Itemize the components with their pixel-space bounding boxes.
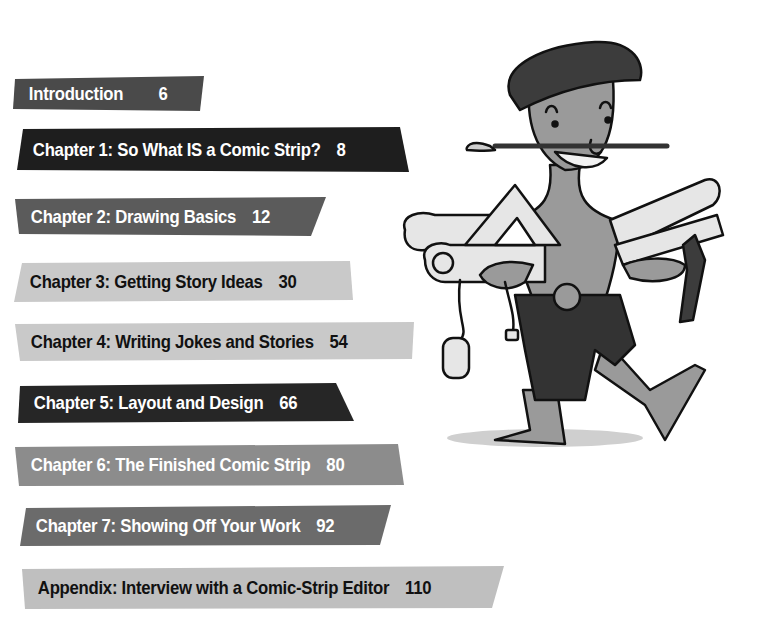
toc-entry-text: Chapter 7: Showing Off Your Work92 [20,515,334,537]
toc-entry-text: Chapter 3: Getting Story Ideas30 [14,271,296,293]
t-square [680,235,705,322]
right-hand [623,259,685,282]
entry-page-number: 6 [158,83,167,104]
right-eye [606,118,611,123]
entry-title: Chapter 4: Writing Jokes and Stories [31,331,314,352]
toc-entry-text: Chapter 4: Writing Jokes and Stories54 [15,331,348,353]
toc-entry-chapter-3[interactable]: Chapter 3: Getting Story Ideas30 [14,261,353,302]
entry-page-number: 12 [252,206,270,227]
entry-title: Appendix: Interview with a Comic-Strip E… [38,577,389,598]
toc-entry-text: Appendix: Interview with a Comic-Strip E… [22,577,431,599]
toc-entry-introduction[interactable]: Introduction6 [13,76,206,111]
computer-mouse [443,338,469,378]
mouse-cable [459,280,464,340]
belt-buckle [554,284,580,310]
entry-title: Chapter 6: The Finished Comic Strip [31,454,311,475]
toc-entry-text: Chapter 6: The Finished Comic Strip80 [15,454,344,476]
toc-entry-chapter-4[interactable]: Chapter 4: Writing Jokes and Stories54 [15,322,414,361]
toc-entry-text: Chapter 2: Drawing Basics12 [15,206,270,228]
entry-page-number: 110 [405,577,431,598]
toc-entry-chapter-6[interactable]: Chapter 6: The Finished Comic Strip80 [15,444,404,486]
paintbrush-bristles [467,143,495,151]
entry-page-number: 92 [316,515,334,536]
entry-page-number: 8 [336,139,345,160]
cartoon-artist-illustration [395,20,735,470]
entry-title: Chapter 2: Drawing Basics [31,206,236,227]
toc-entry-text: Chapter 1: So What IS a Comic Strip?8 [17,139,346,161]
entry-title: Chapter 5: Layout and Design [34,392,264,413]
toc-entry-chapter-7[interactable]: Chapter 7: Showing Off Your Work92 [20,505,391,546]
cable-plug [506,330,518,340]
left-eye [553,122,558,127]
entry-title: Chapter 7: Showing Off Your Work [36,515,301,536]
toc-entry-chapter-1[interactable]: Chapter 1: So What IS a Comic Strip?8 [17,127,409,172]
cable-end [505,282,513,332]
entry-page-number: 30 [278,271,296,292]
entry-title: Introduction [29,83,123,104]
entry-page-number: 54 [330,331,348,352]
toc-entry-text: Chapter 5: Layout and Design66 [18,392,297,414]
entry-page-number: 66 [279,392,297,413]
entry-title: Chapter 3: Getting Story Ideas [30,271,263,292]
toc-entry-chapter-5[interactable]: Chapter 5: Layout and Design66 [18,383,354,423]
toc-entry-text: Introduction6 [13,83,167,105]
entry-title: Chapter 1: So What IS a Comic Strip? [33,139,321,160]
entry-page-number: 80 [326,454,344,475]
toc-entry-appendix[interactable]: Appendix: Interview with a Comic-Strip E… [22,566,504,609]
toc-entry-chapter-2[interactable]: Chapter 2: Drawing Basics12 [15,197,326,236]
